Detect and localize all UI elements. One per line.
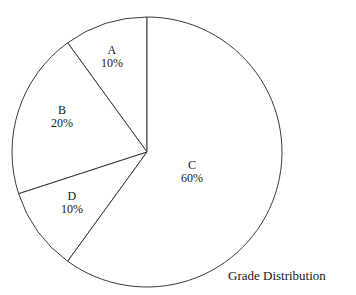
pie-chart-canvas [0,0,356,295]
pie-chart-figure: A 10% B 20% D 10% C 60% Grade Distributi… [0,0,356,295]
chart-title: Grade Distribution [228,268,326,284]
pie-slice-group [12,17,282,287]
